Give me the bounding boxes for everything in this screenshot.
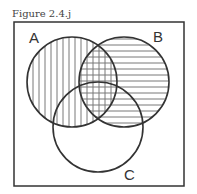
set-a-label: A — [29, 29, 39, 46]
set-b-label: B — [153, 28, 163, 45]
venn-diagram: A B C — [0, 0, 197, 194]
set-c-label: C — [124, 166, 135, 183]
